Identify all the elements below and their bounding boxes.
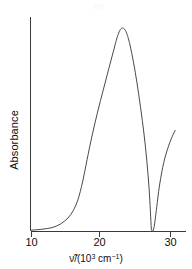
chart-canvas: 10 20 30 ν̃/(103 cm−1) Absorbance — [0, 0, 192, 269]
x-tick-label-20: 20 — [93, 236, 105, 248]
x-tick-label-10: 10 — [25, 236, 37, 248]
svg-text:ν̃/(103 cm−1): ν̃/(103 cm−1) — [69, 253, 123, 265]
x-axis-title-divider: /(10 — [74, 253, 92, 264]
top-artifact — [94, 4, 103, 10]
y-axis-title-label: Absorbance — [8, 110, 20, 170]
x-axis-title-unit: cm — [95, 253, 111, 264]
y-axis-title: Absorbance — [8, 110, 20, 170]
absorbance-spectrum-figure: 10 20 30 ν̃/(103 cm−1) Absorbance — [0, 0, 192, 269]
spectrum-curve — [31, 28, 175, 231]
x-tick-label-30: 30 — [164, 236, 176, 248]
x-axis-title-close: ) — [119, 253, 122, 264]
x-axis-title-unit-exponent: −1 — [111, 253, 119, 260]
x-axis-title: ν̃/(103 cm−1) — [69, 253, 123, 265]
